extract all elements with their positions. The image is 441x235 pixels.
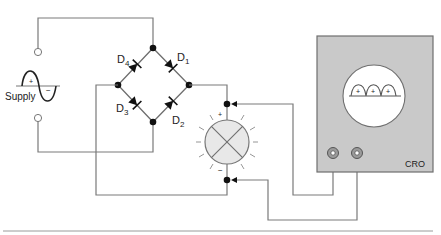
- wire-supply-top: [38, 18, 153, 48]
- lamp-node-top: [224, 101, 231, 108]
- supply-label: Supply: [5, 91, 36, 102]
- probe-arrow-1-icon: [231, 101, 237, 107]
- probe-arrow-2-icon: [231, 177, 237, 183]
- supply-minus-sign: −: [46, 86, 51, 95]
- lamp-node-bottom: [224, 177, 231, 184]
- ac-supply: + − Supply: [5, 18, 153, 152]
- wave-plus-3: +: [386, 88, 390, 95]
- lamp: + −: [196, 101, 258, 184]
- lamp-plus-sign: +: [218, 111, 222, 118]
- supply-terminal-top: [34, 48, 41, 55]
- supply-plus-sign: +: [29, 78, 33, 85]
- node-bottom: [150, 119, 157, 126]
- node-top: [150, 45, 157, 52]
- wave-plus-2: +: [371, 88, 375, 95]
- label-d2: D2: [172, 114, 185, 129]
- supply-terminal-bottom: [34, 114, 41, 121]
- cro-oscilloscope: + + + CRO: [317, 36, 433, 172]
- lamp-minus-sign: −: [218, 166, 223, 175]
- wire-right-to-lamp: [189, 85, 227, 104]
- full-wave-rectifier-diagram: + − Supply D4 D1: [0, 0, 441, 235]
- cro-label: CRO: [405, 159, 425, 169]
- label-d3: D3: [116, 102, 129, 117]
- label-d1: D1: [177, 51, 190, 66]
- label-d4: D4: [117, 53, 130, 68]
- bridge-rectifier: D4 D1 D3 D2: [115, 45, 193, 129]
- wave-plus-1: +: [356, 88, 360, 95]
